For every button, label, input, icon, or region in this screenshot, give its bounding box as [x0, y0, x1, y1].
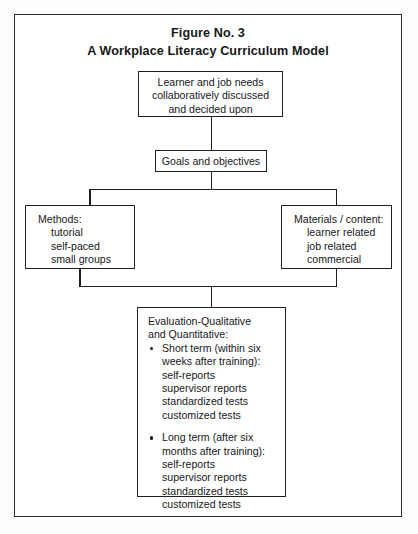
node-learner-and-job-needs: Learner and job needs collaboratively di… [138, 71, 283, 117]
connector-bus-to-materials [336, 189, 338, 206]
node-evaluation-long-term-item-4: customized tests [148, 498, 285, 511]
connector-methods-down [79, 269, 81, 287]
connector-bus-upper [89, 189, 336, 191]
figure-title-line-2: A Workplace Literacy Curriculum Model [14, 42, 402, 60]
figure-title-line-1: Figure No. 3 [14, 24, 402, 42]
bullet-dot-icon [150, 436, 153, 439]
node-evaluation-long-term-item-1: self-reports [148, 458, 285, 471]
node-needs-line-2: collaboratively discussed [139, 89, 282, 102]
node-materials-item-2: job related [294, 240, 391, 253]
node-evaluation-short-term-item-3: standardized tests [148, 395, 285, 408]
node-evaluation-short-term-item-1: self-reports [148, 369, 285, 382]
connector-goals-down [211, 172, 213, 190]
node-methods-item-3: small groups [38, 253, 134, 266]
bullet-dot-icon [150, 347, 153, 350]
connector-bus-to-evaluation [211, 286, 213, 308]
node-goals-and-objectives: Goals and objectives [155, 150, 267, 172]
node-evaluation-bullet-short-term-line-1: Short term (within six [162, 342, 261, 354]
node-evaluation-bullet-long-term-line-1: Long term (after six [162, 431, 253, 443]
node-methods-item-2: self-paced [38, 240, 134, 253]
connector-materials-down [336, 269, 338, 287]
node-evaluation-short-term-item-2: supervisor reports [148, 382, 285, 395]
node-evaluation: Evaluation-Qualitative and Quantitative:… [137, 307, 286, 497]
node-evaluation-long-term-item-2: supervisor reports [148, 471, 285, 484]
node-evaluation-short-term-item-4: customized tests [148, 409, 285, 422]
node-evaluation-long-term-item-3: standardized tests [148, 485, 285, 498]
node-methods-heading: Methods: [38, 213, 134, 226]
node-evaluation-bullet-short-term: Short term (within six [148, 342, 285, 355]
node-materials-heading: Materials / content: [294, 213, 391, 226]
node-evaluation-bullet-long-term-line-2: months after training): [148, 445, 285, 458]
figure-page: Figure No. 3 A Workplace Literacy Curric… [0, 0, 418, 534]
node-materials-content: Materials / content: learner related job… [281, 205, 392, 269]
connector-bus-lower [79, 286, 337, 288]
node-methods-item-1: tutorial [38, 226, 134, 239]
node-materials-item-1: learner related [294, 226, 391, 239]
node-methods: Methods: tutorial self-paced small group… [25, 205, 135, 269]
node-evaluation-heading-line-2: and Quantitative: [148, 328, 285, 341]
node-needs-line-3: and decided upon [139, 103, 282, 116]
node-evaluation-bullet-short-term-line-2: weeks after training): [148, 355, 285, 368]
node-goals-label: Goals and objectives [156, 155, 266, 168]
node-materials-item-3: commercial [294, 253, 391, 266]
connector-bus-to-methods [89, 189, 91, 206]
figure-title: Figure No. 3 A Workplace Literacy Curric… [14, 24, 402, 60]
node-evaluation-bullet-long-term: Long term (after six [148, 431, 285, 444]
node-needs-line-1: Learner and job needs [139, 76, 282, 89]
node-evaluation-heading-line-1: Evaluation-Qualitative [148, 315, 285, 328]
connector-needs-to-goals [211, 117, 213, 150]
node-evaluation-group-spacer [148, 422, 285, 431]
